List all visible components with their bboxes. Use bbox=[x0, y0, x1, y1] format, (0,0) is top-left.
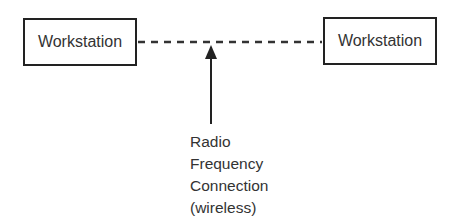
workstation-node-right: Workstation bbox=[323, 17, 437, 65]
annotation-line-2: Frequency bbox=[190, 153, 268, 175]
connection-annotation: Radio Frequency Connection (wireless) bbox=[190, 131, 268, 219]
workstation-node-left: Workstation bbox=[23, 18, 137, 66]
annotation-arrow-head-icon bbox=[205, 45, 217, 59]
annotation-line-4: (wireless) bbox=[190, 197, 268, 219]
annotation-line-3: Connection bbox=[190, 175, 268, 197]
annotation-line-1: Radio bbox=[190, 131, 268, 153]
workstation-right-label: Workstation bbox=[338, 32, 422, 50]
workstation-left-label: Workstation bbox=[38, 33, 122, 51]
